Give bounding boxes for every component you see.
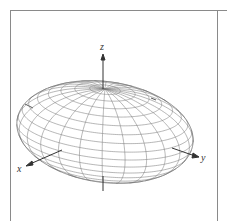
y-arrowhead-icon bbox=[192, 153, 199, 158]
y-axis-label: y bbox=[200, 152, 206, 163]
figure-frame bbox=[10, 10, 227, 221]
back-axes bbox=[25, 98, 156, 108]
ellipsoid-wireframe bbox=[17, 81, 193, 184]
wireframe-line bbox=[105, 89, 147, 183]
z-arrowhead-icon bbox=[101, 54, 105, 60]
z-axis-label: z bbox=[99, 41, 104, 52]
wireframe-line bbox=[105, 89, 180, 175]
ellipsoid-figure: z x y bbox=[0, 0, 227, 221]
wireframe-line bbox=[22, 104, 188, 143]
wireframe-line bbox=[105, 89, 189, 164]
wireframe-line bbox=[105, 89, 125, 183]
wireframe-line bbox=[18, 114, 192, 152]
x-arrowhead-icon bbox=[26, 161, 33, 166]
wireframe-line bbox=[105, 89, 193, 142]
wireframe-line bbox=[29, 96, 182, 135]
wireframe-line bbox=[68, 175, 143, 183]
x-axis-label: x bbox=[16, 163, 22, 174]
wireframe-line bbox=[102, 89, 105, 183]
